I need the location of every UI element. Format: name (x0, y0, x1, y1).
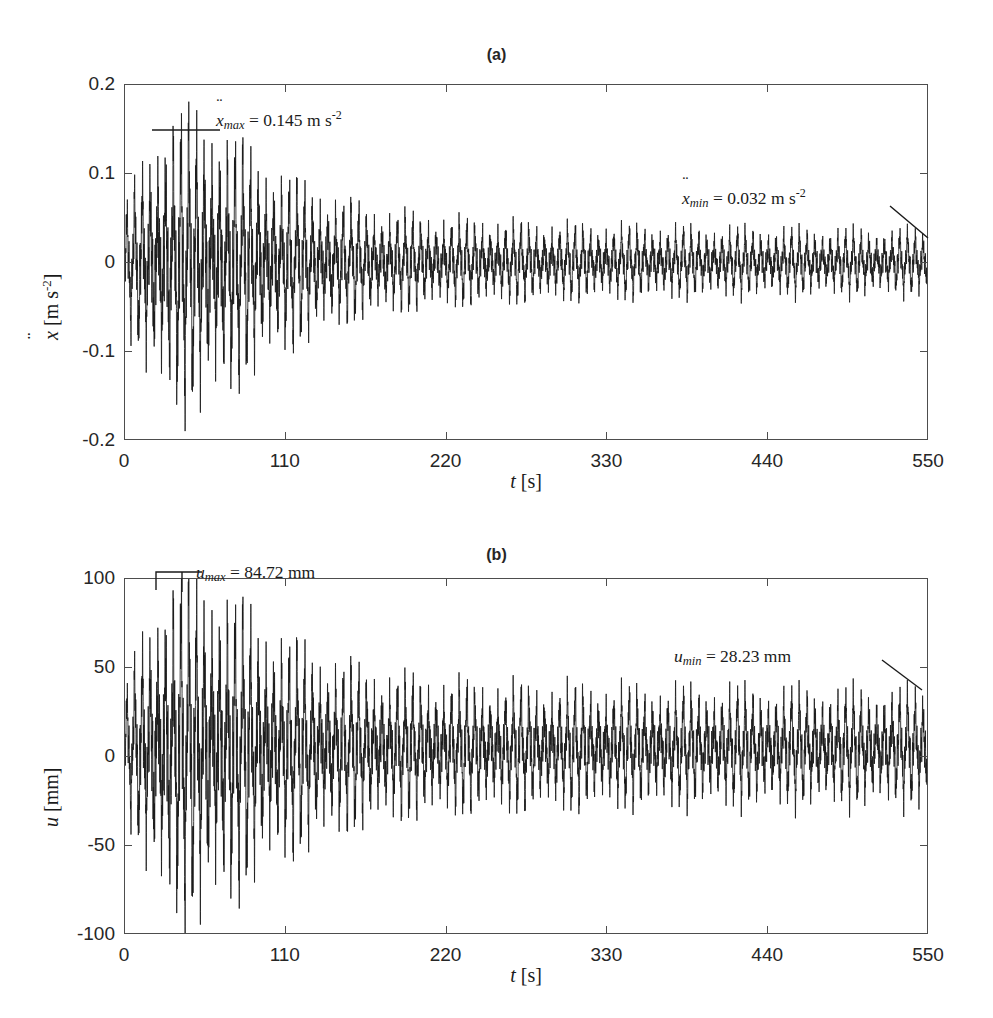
waveform-path (125, 102, 927, 431)
panel-a-xaxis-label: t [s] (124, 470, 928, 493)
waveform-path (125, 579, 927, 933)
ytick-label: 0 (14, 251, 124, 273)
xtick-mark-bottom (285, 432, 286, 440)
xtick-mark-top (767, 578, 768, 586)
xtick-mark-top (606, 84, 607, 92)
annotation-xddot-min: xmin = 0.032 m s-2 (682, 188, 806, 209)
ytick-mark-left (124, 262, 132, 263)
ytick-mark-right (920, 667, 928, 668)
annotation-xddot-max-sub: max (224, 118, 245, 132)
panel-a-yaxis-unit-exponent: -2 (39, 280, 54, 291)
ytick-mark-right (920, 173, 928, 174)
annotation-xddot-min-sub: min (690, 196, 709, 210)
xtick-mark-bottom (767, 926, 768, 934)
panel-a-xaxis-unit: [s] (521, 470, 542, 492)
xtick-label: 110 (225, 450, 345, 472)
displacement-waveform (125, 579, 927, 933)
panel-b-yaxis-var: u (40, 817, 62, 827)
ytick-label: 50 (14, 656, 124, 678)
annotation-xddot-max-text: = 0.145 m s (245, 110, 332, 130)
xtick-label: 0 (64, 944, 184, 966)
xtick-label: 220 (386, 450, 506, 472)
xtick-label: 0 (64, 450, 184, 472)
annotation-xddot-max-sup: -2 (332, 108, 342, 122)
xtick-mark-top (606, 578, 607, 586)
annotation-u-min-text: = 28.23 mm (702, 646, 792, 666)
ytick-label: -0.2 (14, 429, 124, 451)
panel-a-yaxis-label: x [m s-2] (40, 274, 63, 340)
xtick-label: 550 (868, 944, 988, 966)
panel-a-yaxis-unit: [m s (40, 291, 62, 326)
annotation-u-min-sub: min (683, 654, 702, 668)
panel-a-plot-area (124, 84, 928, 440)
ytick-mark-left (124, 351, 132, 352)
panel-b-xaxis-unit: [s] (521, 964, 542, 986)
ytick-label: -100 (14, 923, 124, 945)
panel-a-yaxis-var: x (40, 331, 63, 340)
annotation-xddot-min-text: = 0.032 m s (709, 188, 796, 208)
ytick-mark-right (920, 845, 928, 846)
ytick-mark-left (124, 756, 132, 757)
xtick-label: 550 (868, 450, 988, 472)
ytick-mark-left (124, 845, 132, 846)
ytick-label: 100 (14, 567, 124, 589)
acceleration-waveform (125, 85, 927, 439)
xtick-label: 110 (225, 944, 345, 966)
annotation-u-max-text: = 84.72 mm (226, 562, 316, 582)
xtick-mark-bottom (446, 926, 447, 934)
xtick-label: 440 (707, 944, 827, 966)
panel-acceleration: (a) 0.20.10-0.1-0.2 0110220330440550 t [… (0, 0, 993, 510)
panel-b-yaxis-label: u [mm] (40, 768, 63, 827)
xtick-mark-bottom (285, 926, 286, 934)
annotation-u-max-sub: max (205, 570, 226, 584)
xtick-mark-top (767, 84, 768, 92)
annotation-u-max: umax = 84.72 mm (196, 562, 315, 583)
xtick-label: 330 (546, 450, 666, 472)
xtick-mark-bottom (446, 432, 447, 440)
xtick-mark-bottom (767, 432, 768, 440)
xtick-mark-bottom (606, 926, 607, 934)
xtick-mark-top (285, 84, 286, 92)
panel-b-xaxis-label: t [s] (124, 964, 928, 987)
panel-a-title: (a) (0, 46, 993, 64)
ytick-label: -50 (14, 834, 124, 856)
annotation-u-max-var: u (196, 562, 205, 582)
ytick-label: 0 (14, 745, 124, 767)
annotation-u-min: umin = 28.23 mm (674, 646, 791, 667)
ytick-mark-right (920, 756, 928, 757)
panel-b-plot-area (124, 578, 928, 934)
ytick-mark-left (124, 667, 132, 668)
xtick-mark-top (446, 578, 447, 586)
ytick-label: 0.1 (14, 162, 124, 184)
annotation-xddot-max: xmax = 0.145 m s-2 (216, 110, 342, 131)
xtick-mark-bottom (606, 432, 607, 440)
xtick-label: 440 (707, 450, 827, 472)
ytick-label: 0.2 (14, 73, 124, 95)
annotation-xddot-max-var: x (216, 110, 224, 131)
ytick-label: -0.1 (14, 340, 124, 362)
annotation-xddot-min-var: x (682, 188, 690, 209)
panel-b-yaxis-unit: [mm] (40, 768, 62, 812)
annotation-xddot-min-sup: -2 (796, 186, 806, 200)
xtick-label: 330 (546, 944, 666, 966)
panel-displacement: (b) 100500-50-100 0110220330440550 t [s]… (0, 494, 993, 1018)
xtick-mark-top (446, 84, 447, 92)
panel-b-title: (b) (0, 546, 993, 564)
vibration-response-figure: (a) 0.20.10-0.1-0.2 0110220330440550 t [… (0, 0, 993, 1018)
ytick-mark-left (124, 173, 132, 174)
xtick-label: 220 (386, 944, 506, 966)
annotation-u-min-var: u (674, 646, 683, 666)
ytick-mark-right (920, 262, 928, 263)
ytick-mark-right (920, 351, 928, 352)
